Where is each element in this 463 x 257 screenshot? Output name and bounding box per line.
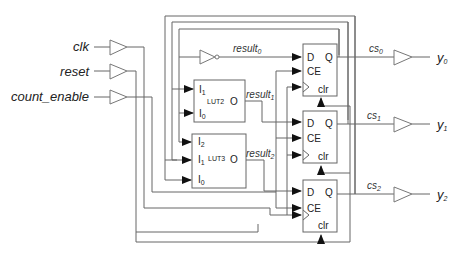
buffer-icon	[110, 40, 127, 55]
signal-label-result0: result0	[233, 43, 261, 55]
ff2-port-clr: clr	[318, 220, 329, 231]
ff1-port-clr: clr	[318, 151, 329, 162]
ff0-port-ce: CE	[307, 66, 321, 77]
output-y2: y2	[394, 187, 448, 202]
output-label-y2: y2	[436, 187, 448, 202]
input-label-clk: clk	[73, 39, 90, 54]
lut3-output-o: O	[230, 154, 238, 165]
lut2-block: I1 I0 LUT2 O	[194, 80, 245, 122]
lut3-label: LUT3	[208, 155, 225, 162]
flip-flop-0: D Q CE clr	[303, 44, 337, 96]
ff1-port-q: Q	[325, 118, 333, 129]
lut2-label: LUT2	[207, 98, 224, 105]
inverter	[200, 50, 219, 64]
signal-label-cs2: cs2	[367, 180, 381, 192]
buffer-icon	[394, 117, 412, 132]
inverter-icon	[200, 50, 215, 64]
flip-flop-1: D Q CE clr	[303, 111, 337, 163]
buffer-icon	[394, 50, 412, 65]
buffer-icon	[110, 64, 127, 79]
output-label-y1: y1	[436, 117, 448, 132]
lut3-block: I2 I1 I0 LUT3 O	[192, 134, 246, 188]
ff2-port-ce: CE	[307, 203, 321, 214]
ff1-port-d: D	[307, 118, 314, 129]
input-label-count-enable: count_enable	[11, 89, 89, 104]
output-y0: y0	[394, 50, 448, 65]
ff0-port-d: D	[307, 52, 314, 63]
flip-flop-2: D Q CE clr	[303, 180, 337, 232]
ff2-port-d: D	[307, 187, 314, 198]
ff2-port-q: Q	[325, 187, 333, 198]
counter-circuit-diagram: clk reset count_enable result0 I1 I0 L	[0, 0, 463, 257]
input-clk: clk	[73, 39, 127, 55]
ff0-port-q: Q	[325, 52, 333, 63]
input-reset: reset	[60, 64, 127, 79]
signal-label-cs0: cs0	[369, 43, 383, 55]
buffer-icon	[110, 90, 127, 104]
ff1-port-ce: CE	[307, 133, 321, 144]
ff0-port-clr: clr	[318, 84, 329, 95]
lut2-output-o: O	[230, 96, 238, 107]
signal-label-result1: result1	[246, 89, 274, 101]
output-y1: y1	[394, 117, 448, 132]
signal-label-cs1: cs1	[367, 110, 381, 122]
input-label-reset: reset	[60, 64, 90, 79]
signal-label-result2: result2	[246, 148, 274, 160]
input-count-enable: count_enable	[11, 89, 127, 104]
output-label-y0: y0	[436, 50, 448, 65]
buffer-icon	[394, 187, 412, 202]
